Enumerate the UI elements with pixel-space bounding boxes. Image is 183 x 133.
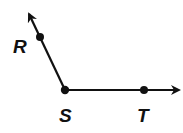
angle-diagram: R S T [0,0,183,133]
angle-rays [0,0,183,133]
label-s: S [59,106,72,125]
point-r [36,33,44,41]
point-t [140,86,148,94]
label-t: T [137,106,149,125]
ray-sr [29,14,65,90]
label-r: R [13,37,27,56]
point-s [61,86,69,94]
